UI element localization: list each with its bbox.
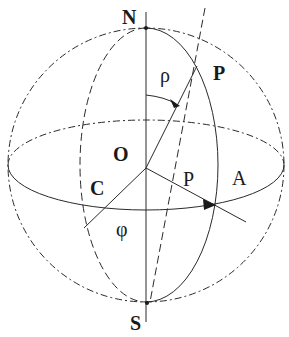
meridian-through-p — [146, 28, 218, 302]
label-rho: ρ — [160, 64, 170, 87]
label-center: O — [113, 143, 129, 165]
line-o-to-a — [146, 168, 246, 222]
south-pole-dot — [145, 301, 149, 305]
label-south: S — [130, 312, 141, 334]
label-c-point: C — [90, 177, 104, 199]
label-p-vector: P — [183, 168, 194, 190]
label-north: N — [122, 6, 137, 28]
line-o-to-p — [146, 66, 197, 168]
sphere-diagram: N S O P ρ P A C φ — [0, 0, 289, 337]
label-pole: P — [213, 62, 225, 84]
label-a-point: A — [232, 167, 247, 189]
meridian-left-dashed — [80, 28, 146, 302]
label-phi: φ — [116, 218, 128, 241]
north-pole-dot — [144, 26, 148, 30]
rho-arc — [146, 95, 176, 104]
dashed-line-through-p — [150, 8, 205, 302]
